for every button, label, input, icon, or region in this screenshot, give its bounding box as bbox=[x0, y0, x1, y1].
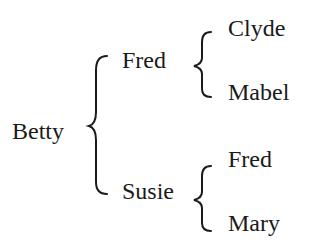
node-fred-child: Fred bbox=[228, 147, 272, 171]
fred-brace bbox=[194, 32, 211, 97]
node-mabel: Mabel bbox=[228, 80, 289, 104]
susie-brace bbox=[194, 166, 211, 231]
node-fred: Fred bbox=[122, 48, 166, 72]
node-clyde: Clyde bbox=[228, 16, 285, 40]
node-susie: Susie bbox=[122, 179, 174, 203]
node-betty: Betty bbox=[12, 119, 64, 143]
node-mary: Mary bbox=[228, 211, 280, 235]
root-brace bbox=[89, 56, 107, 194]
